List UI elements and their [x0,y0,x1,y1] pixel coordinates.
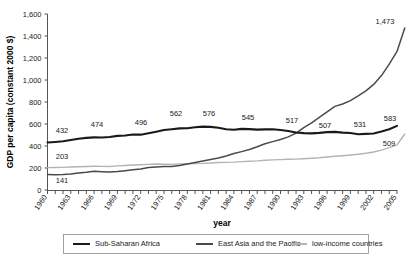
y-tick-label: 1,200 [23,54,42,63]
x-tick-label: 1969 [102,193,119,212]
x-tick-label: 1990 [265,193,282,212]
x-tick-label: 1993 [288,193,305,212]
data-point-label: 562 [170,109,183,118]
x-axis-title-label: year [213,218,231,228]
data-point-label: 507 [319,121,332,130]
data-point-label: 141 [56,176,69,185]
data-point-label: 203 [56,152,69,161]
y-tick-label: 1,400 [23,32,42,41]
data-point-label: 531 [354,120,367,129]
x-tick-label: 2002 [358,193,375,212]
series-lines [48,28,405,175]
y-axis-title-label: GDP per capita (constant 2000 $) [5,36,15,169]
x-tick-label: 1984 [219,193,236,212]
data-point-label: 432 [56,126,69,135]
legend-label: low-income countries [312,239,383,248]
y-tick-label: 600 [29,120,42,129]
data-point-label: 517 [286,116,299,125]
data-point-labels: 4324744965625765455175075315831,47314120… [56,17,397,185]
series-line-east-asia-and-the-pacific [48,28,405,175]
data-point-label: 1,473 [376,17,395,26]
data-point-label: 583 [384,114,397,123]
x-tick-label: 2005 [382,193,399,212]
x-tick-label: 1996 [312,193,329,212]
y-tick-label: 200 [29,164,42,173]
y-axis-ticks: 02004006008001,0001,2001,4001,600 [23,10,48,195]
x-tick-label: 1975 [149,193,166,212]
x-tick-label: 1972 [125,193,142,212]
x-tick-label: 1978 [172,193,189,212]
y-tick-label: 400 [29,142,42,151]
y-tick-label: 1,600 [23,10,42,19]
gdp-per-capita-line-chart: GDP per capita (constant 2000 $) 0200400… [0,0,407,263]
chart-canvas: GDP per capita (constant 2000 $) 0200400… [0,0,407,263]
x-tick-label: 1960 [32,193,49,212]
y-tick-label: 800 [29,98,42,107]
x-axis-ticks: 1960196319661969197219751978198119841987… [32,190,398,212]
x-tick-label: 1981 [195,193,212,212]
data-point-label: 474 [91,120,104,129]
chart-legend: Sub-Saharan AfricaEast Asia and the Paci… [64,235,383,254]
data-point-label: 509 [383,139,396,148]
x-tick-label: 1963 [55,193,72,212]
x-tick-label: 1966 [79,193,96,212]
legend-label: Sub-Saharan Africa [95,239,161,248]
legend-label: East Asia and the Pacific [218,239,301,248]
data-point-label: 576 [203,109,216,118]
y-axis-title: GDP per capita (constant 2000 $) [5,36,15,169]
data-point-label: 545 [242,113,255,122]
data-point-label: 496 [135,118,148,127]
x-tick-label: 1987 [242,193,259,212]
x-tick-label: 1999 [335,193,352,212]
series-line-low-income-countries [48,134,405,168]
y-tick-label: 1,000 [23,76,42,85]
